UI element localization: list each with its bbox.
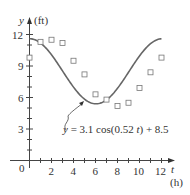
chart-canvas: 12 9 6 3 0 2 4 6 8 10 12 y (ft) t (h) y …	[0, 0, 190, 195]
equation-label: y = 3.1 cos(0.52 t) + 8.5	[62, 123, 169, 136]
data-point	[71, 58, 76, 63]
data-points	[27, 37, 164, 108]
y-tick-label-9: 9	[18, 60, 24, 72]
data-point	[126, 100, 131, 105]
y-axis-label: y	[18, 14, 24, 26]
x-tick-label-8: 8	[115, 165, 121, 177]
y-axis-unit: (ft)	[34, 14, 48, 27]
x-axis-label: t	[171, 163, 175, 175]
data-point	[104, 97, 109, 102]
data-point	[115, 103, 120, 108]
x-axis-unit: (h)	[170, 176, 183, 189]
data-point	[137, 86, 142, 91]
data-point	[93, 92, 98, 97]
x-tick-label-10: 10	[133, 165, 145, 177]
y-tick-label-12: 12	[12, 29, 23, 41]
equation-body: = 3.1 cos(0.52	[68, 123, 137, 136]
data-point	[49, 37, 54, 42]
x-tick-label-12: 12	[155, 165, 166, 177]
data-point	[159, 55, 164, 60]
x-tick-label-4: 4	[71, 165, 77, 177]
x-tick-label-2: 2	[49, 165, 55, 177]
data-point	[60, 40, 65, 45]
y-axis-arrow-icon	[27, 17, 32, 24]
data-point	[38, 39, 43, 44]
data-point	[27, 55, 32, 60]
data-point	[148, 70, 153, 75]
x-tick-label-6: 6	[93, 165, 99, 177]
y-tick-label-3: 3	[18, 123, 24, 135]
data-point	[82, 72, 87, 77]
y-tick-label-6: 6	[18, 92, 24, 104]
equation-tail: ) + 8.5	[139, 123, 169, 136]
origin-label: 0	[19, 162, 25, 174]
